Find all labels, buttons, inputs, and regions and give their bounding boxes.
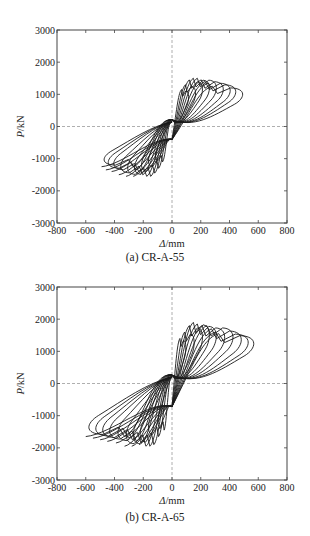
x-tick-label: -600 xyxy=(77,482,95,493)
x-axis-title: Δ/mm xyxy=(158,495,184,506)
chart-panel-b: -800-600-400-200020040060080030002000100… xyxy=(0,258,310,536)
x-tick-label: -200 xyxy=(134,225,152,236)
y-tick-label: -2000 xyxy=(32,442,55,453)
y-tick-label: 3000 xyxy=(35,25,55,36)
x-tick-label: 600 xyxy=(251,225,266,236)
y-tick-label: 1000 xyxy=(35,346,55,357)
hysteresis-cycle xyxy=(93,332,248,438)
y-tick-label: 2000 xyxy=(35,314,55,325)
chart-panel-a: -800-600-400-200020040060080030002000100… xyxy=(0,0,310,270)
y-tick-label: -2000 xyxy=(32,185,55,196)
x-tick-label: 800 xyxy=(280,225,295,236)
hysteresis-cycle xyxy=(119,80,223,175)
x-tick-label: -400 xyxy=(105,482,123,493)
y-tick-label: -3000 xyxy=(32,475,55,486)
y-tick-label: 0 xyxy=(50,121,55,132)
hysteresis-plot-b: -800-600-400-200020040060080030002000100… xyxy=(0,258,310,508)
x-tick-label: -400 xyxy=(105,225,123,236)
caption-b: (b) CR-A-65 xyxy=(0,511,310,523)
y-tick-label: 1000 xyxy=(35,89,55,100)
hysteresis-loops xyxy=(86,322,254,446)
x-tick-label: 200 xyxy=(193,225,208,236)
y-tick-label: 2000 xyxy=(35,57,55,68)
y-tick-label: 0 xyxy=(50,378,55,389)
y-axis-title: P/kN xyxy=(15,372,26,396)
x-tick-label: 0 xyxy=(170,482,175,493)
x-tick-label: 200 xyxy=(193,482,208,493)
y-tick-label: -1000 xyxy=(32,410,55,421)
hysteresis-plot-a: -800-600-400-200020040060080030002000100… xyxy=(0,0,310,250)
y-tick-label: -3000 xyxy=(32,218,55,229)
x-tick-label: 0 xyxy=(170,225,175,236)
y-tick-label: -1000 xyxy=(32,153,55,164)
x-tick-label: -600 xyxy=(77,225,95,236)
x-axis-title: Δ/mm xyxy=(158,238,184,249)
hysteresis-cycle xyxy=(132,322,210,446)
x-tick-label: -200 xyxy=(134,482,152,493)
x-tick-label: 400 xyxy=(222,482,237,493)
y-tick-label: 3000 xyxy=(35,282,55,293)
x-tick-label: 600 xyxy=(251,482,266,493)
x-tick-label: 800 xyxy=(280,482,295,493)
x-tick-label: 400 xyxy=(222,225,237,236)
y-axis-title: P/kN xyxy=(15,115,26,139)
